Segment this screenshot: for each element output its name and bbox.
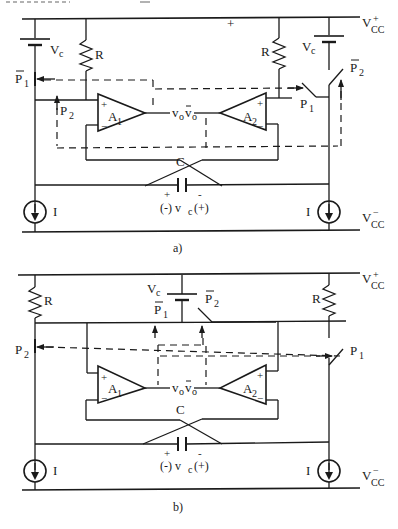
resistor-left-a — [80, 40, 92, 71]
svg-text:2: 2 — [252, 116, 257, 127]
svg-text:1: 1 — [359, 350, 364, 361]
p1-right-label-b: P — [350, 343, 357, 358]
battery-right-a — [314, 36, 344, 42]
circuit-b: + − + − — [15, 269, 385, 514]
svg-text:(+): (+) — [194, 459, 209, 473]
vo-label-a: v — [172, 105, 179, 120]
svg-text:−: − — [373, 207, 379, 218]
switch-p1-right-a — [302, 83, 316, 97]
svg-text:−: − — [101, 392, 107, 404]
svg-text:+: + — [373, 13, 379, 24]
switch-p2bar-b — [198, 308, 212, 322]
svg-text:+: + — [373, 269, 379, 280]
svg-text:-: - — [198, 447, 202, 459]
circuit-figure: + − + − — [0, 0, 398, 529]
svg-text:1: 1 — [163, 309, 168, 320]
battery-b — [167, 294, 197, 300]
current-left-label-b: I — [53, 463, 57, 478]
vcc-neg-rail-b — [22, 488, 360, 490]
p1bar-label-a: P — [15, 71, 22, 86]
svg-text:1: 1 — [117, 116, 122, 127]
switch-p1-right-b — [329, 349, 343, 365]
vcc-pos-rail-b — [18, 273, 360, 275]
svg-text:o: o — [192, 386, 197, 397]
current-source-right-a — [318, 201, 340, 223]
p2bar-right-label-a: P — [350, 60, 357, 75]
svg-text:+: + — [101, 98, 107, 110]
vo-label-b: v — [172, 380, 179, 395]
svg-text:1: 1 — [309, 103, 314, 114]
resistor-left-b — [29, 287, 41, 318]
vcc-pos-sup-a: + — [227, 16, 234, 31]
svg-text:2: 2 — [359, 67, 364, 78]
svg-text:+: + — [164, 447, 170, 459]
vobar-label-b: v — [185, 380, 192, 395]
current-left-label-a: I — [53, 204, 57, 219]
svg-text:-: - — [198, 188, 202, 200]
p2-left-label-b: P — [15, 342, 22, 357]
caption-a: a) — [173, 241, 182, 255]
svg-text:+: + — [257, 369, 263, 381]
current-right-label-b: I — [306, 463, 310, 478]
svg-text:o: o — [179, 111, 184, 122]
svg-text:c: c — [188, 206, 193, 217]
svg-text:−: − — [257, 120, 263, 132]
svg-text:+: + — [164, 188, 170, 200]
svg-text:CC: CC — [371, 280, 385, 291]
resistor-right-b — [323, 285, 335, 316]
resistor-right-label-a: R — [261, 44, 270, 59]
battery-left-a — [20, 39, 50, 45]
vcc-pos-rail-a — [22, 17, 360, 19]
svg-text:1: 1 — [24, 78, 29, 89]
svg-text:c: c — [188, 464, 193, 475]
svg-text:−: − — [373, 465, 379, 476]
p2-left-label-a: P — [60, 103, 67, 118]
svg-text:+: + — [101, 371, 107, 383]
svg-text:CC: CC — [371, 219, 385, 230]
svg-text:2: 2 — [24, 349, 29, 360]
resistor-left-label-b: R — [44, 293, 53, 308]
svg-text:−: − — [257, 392, 263, 404]
svg-text:2: 2 — [214, 298, 219, 309]
capacitor-label-a: C — [176, 154, 185, 169]
circuit-a: + − + − — [15, 13, 385, 255]
svg-text:−: − — [101, 120, 107, 132]
capacitor-a — [178, 178, 186, 192]
svg-text:2: 2 — [252, 388, 257, 399]
capacitor-b — [178, 437, 186, 451]
cap-voltage-label-b: (-) v — [160, 459, 181, 473]
current-right-label-a: I — [306, 204, 310, 219]
vobar-label-a: v — [185, 105, 192, 120]
svg-text:o: o — [179, 386, 184, 397]
capacitor-label-b: C — [176, 402, 185, 417]
svg-text:c: c — [59, 48, 64, 59]
current-source-left-b — [24, 460, 46, 482]
resistor-left-label-a: R — [95, 47, 104, 62]
p1-right-label-a: P — [300, 96, 307, 111]
p2bar-label-b: P — [205, 291, 212, 306]
svg-text:(+): (+) — [194, 201, 209, 215]
svg-text:2: 2 — [69, 110, 74, 121]
resistor-right-label-b: R — [312, 291, 321, 306]
svg-text:o: o — [192, 111, 197, 122]
resistor-right-a — [273, 38, 285, 69]
current-source-left-a — [24, 201, 46, 223]
svg-text:1: 1 — [117, 388, 122, 399]
svg-text:CC: CC — [371, 24, 385, 35]
svg-text:c: c — [156, 287, 161, 298]
vcc-neg-rail-a — [22, 230, 360, 232]
current-source-right-b — [318, 460, 340, 482]
p1bar-label-b: P — [154, 302, 161, 317]
caption-b: b) — [173, 500, 183, 514]
svg-text:+: + — [257, 97, 263, 109]
svg-text:CC: CC — [371, 477, 385, 488]
svg-text:c: c — [311, 45, 316, 56]
cap-voltage-label-a: (-) v — [160, 201, 181, 215]
